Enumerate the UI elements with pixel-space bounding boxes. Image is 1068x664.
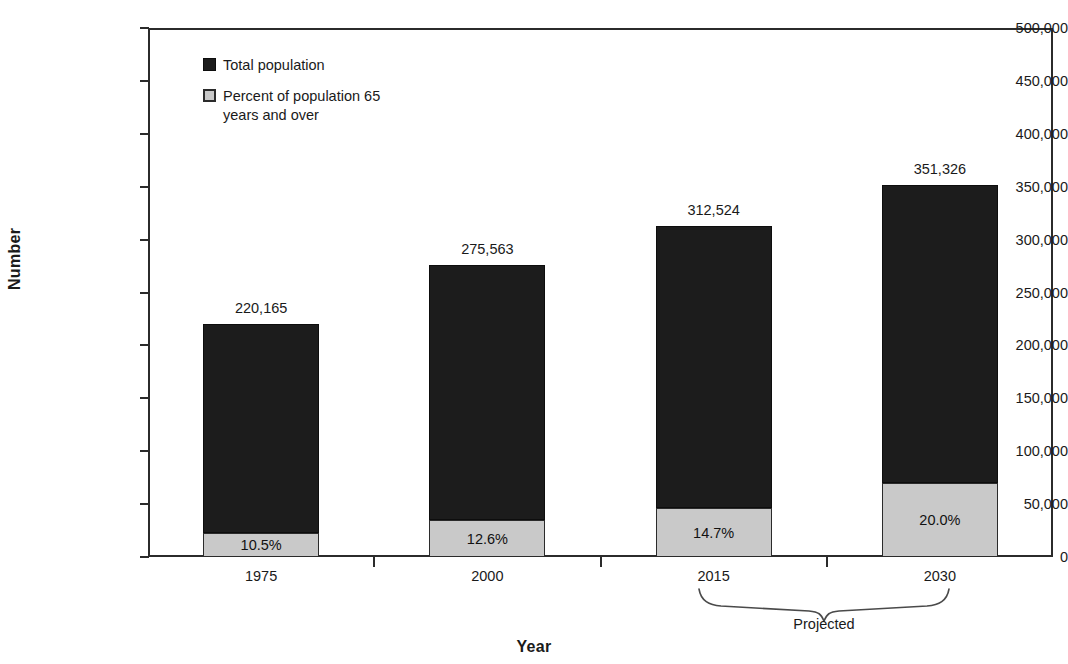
x-tick-label: 2015 bbox=[654, 568, 774, 584]
bar-segment-percent-65-over[interactable]: 12.6% bbox=[429, 520, 545, 557]
bar-percent-label: 20.0% bbox=[919, 512, 960, 528]
y-tick-mark bbox=[140, 186, 149, 188]
y-tick-label: 450,000 bbox=[984, 74, 1068, 89]
bar-segment-total-population[interactable] bbox=[203, 324, 319, 532]
y-tick-mark bbox=[140, 292, 149, 294]
bar-segment-total-population[interactable] bbox=[656, 226, 772, 508]
chart-figure: Number 500,000450,000400,000350,000300,0… bbox=[0, 0, 1068, 664]
y-tick-mark bbox=[140, 133, 149, 135]
bar-segment-total-population[interactable] bbox=[429, 265, 545, 520]
chart-legend: Total population Percent of population 6… bbox=[203, 56, 383, 137]
y-tick-label: 500,000 bbox=[984, 21, 1068, 36]
bar-value-label: 312,524 bbox=[687, 202, 739, 218]
legend-item-total-population[interactable]: Total population bbox=[203, 56, 383, 75]
bar-percent-label: 10.5% bbox=[241, 537, 282, 553]
projected-label: Projected bbox=[693, 616, 955, 632]
bar-percent-label: 14.7% bbox=[693, 525, 734, 541]
y-tick-mark bbox=[140, 503, 149, 505]
bar-percent-label: 12.6% bbox=[467, 531, 508, 547]
bar-segment-percent-65-over[interactable]: 14.7% bbox=[656, 508, 772, 557]
legend-swatch-elderly-icon bbox=[203, 89, 216, 102]
x-tick-mark bbox=[373, 557, 375, 567]
y-tick-mark bbox=[140, 556, 149, 558]
bar-value-label: 275,563 bbox=[461, 241, 513, 257]
y-tick-label: 400,000 bbox=[984, 127, 1068, 142]
x-tick-label: 1975 bbox=[201, 568, 321, 584]
x-axis-title: Year bbox=[0, 638, 1068, 656]
legend-swatch-total-icon bbox=[203, 58, 216, 71]
bar-value-label: 220,165 bbox=[235, 300, 287, 316]
bar-segment-percent-65-over[interactable]: 20.0% bbox=[882, 483, 998, 557]
bar-segment-total-population[interactable] bbox=[882, 185, 998, 482]
legend-label-percent-65-over: Percent of population 65 years and over bbox=[223, 87, 383, 125]
y-tick-mark bbox=[140, 397, 149, 399]
x-tick-mark bbox=[600, 557, 602, 567]
bar-value-label: 351,326 bbox=[914, 161, 966, 177]
y-tick-mark bbox=[140, 239, 149, 241]
y-tick-mark bbox=[140, 344, 149, 346]
x-tick-mark bbox=[826, 557, 828, 567]
y-axis-title: Number bbox=[6, 228, 24, 290]
x-tick-label: 2000 bbox=[427, 568, 547, 584]
legend-item-percent-65-over[interactable]: Percent of population 65 years and over bbox=[203, 87, 383, 125]
x-tick-label: 2030 bbox=[880, 568, 1000, 584]
y-tick-mark bbox=[140, 27, 149, 29]
legend-label-total-population: Total population bbox=[223, 56, 325, 75]
y-tick-mark bbox=[140, 80, 149, 82]
bar-segment-percent-65-over[interactable]: 10.5% bbox=[203, 533, 319, 557]
y-tick-mark bbox=[140, 450, 149, 452]
